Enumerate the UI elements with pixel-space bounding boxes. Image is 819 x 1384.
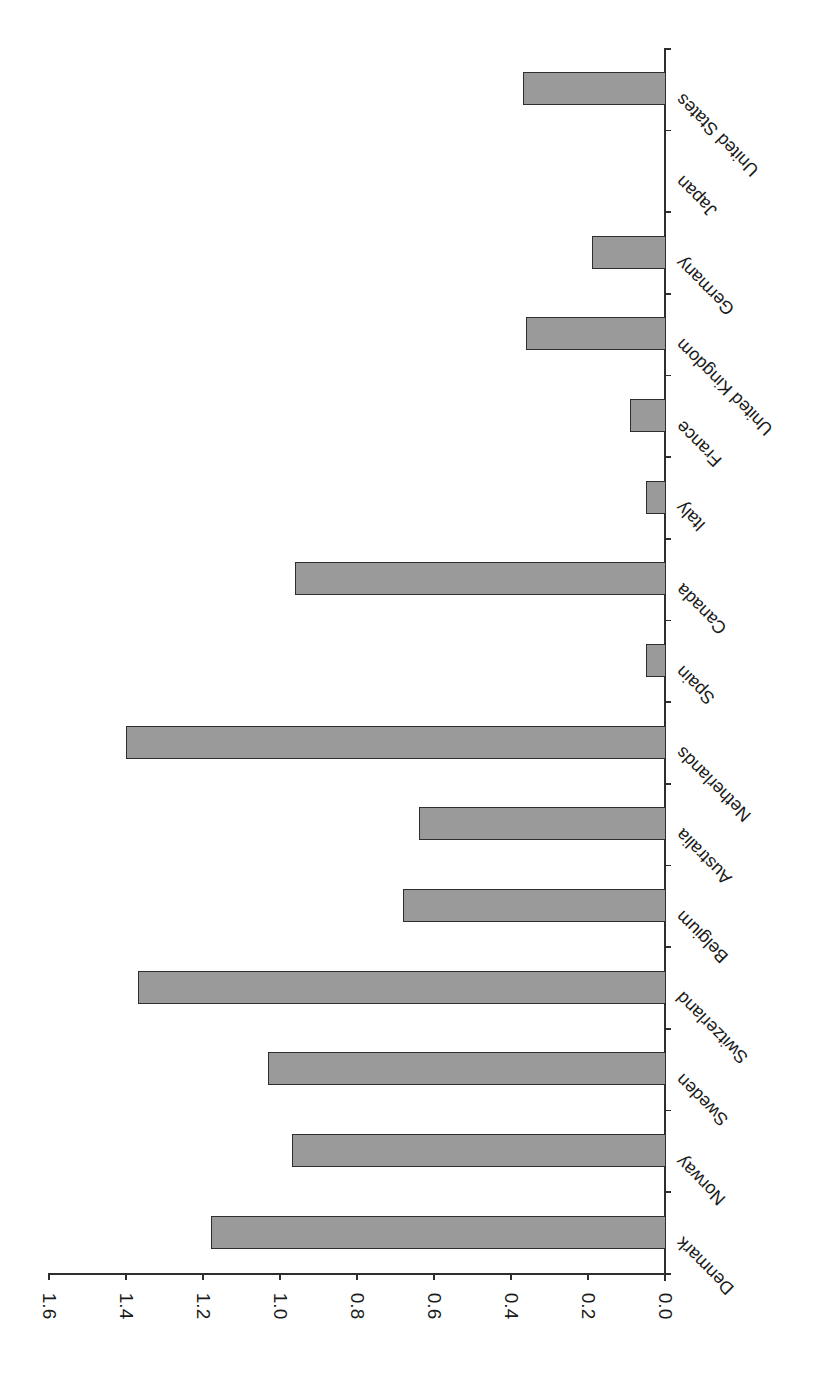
category-label: Netherlands (672, 743, 819, 899)
value-tick-label: 1.0 (269, 1286, 291, 1326)
value-tick (510, 1273, 512, 1280)
value-tick (48, 1273, 50, 1280)
category-label: Norway (672, 1151, 819, 1307)
value-tick (587, 1273, 589, 1280)
category-tick (665, 130, 671, 132)
category-label: United States (672, 90, 819, 246)
category-tick (665, 1273, 671, 1275)
category-tick (665, 48, 671, 50)
bar-germany (592, 236, 666, 269)
category-tick (665, 865, 671, 867)
value-tick-label: 1.6 (38, 1286, 60, 1326)
bar-sweden (268, 1052, 666, 1085)
category-tick (665, 375, 671, 377)
bar-norway (292, 1134, 666, 1167)
category-label: Canada (672, 580, 819, 736)
category-label: Sweden (672, 1070, 819, 1226)
bar-denmark (211, 1216, 666, 1249)
bar-switzerland (138, 971, 666, 1004)
category-tick (665, 783, 671, 785)
value-tick (125, 1273, 127, 1280)
value-tick-label: 1.2 (192, 1286, 214, 1326)
bar-spain (646, 644, 666, 677)
category-label: Switzerland (672, 988, 819, 1144)
value-tick-label: 1.4 (115, 1286, 137, 1326)
category-tick (665, 456, 671, 458)
category-label: Spain (672, 661, 819, 817)
bar-canada (295, 562, 666, 595)
category-label: Germany (672, 253, 819, 409)
category-tick (665, 293, 671, 295)
value-tick (279, 1273, 281, 1280)
bar-netherlands (126, 726, 666, 759)
value-tick (664, 1273, 666, 1280)
value-tick-label: 0.4 (500, 1286, 522, 1326)
category-label: Italy (672, 498, 819, 654)
bar-belgium (403, 889, 666, 922)
clipped-caption (815, 450, 819, 830)
category-tick (665, 211, 671, 213)
category-label: Belgium (672, 906, 819, 1062)
category-tick (665, 1028, 671, 1030)
category-tick (665, 1191, 671, 1193)
value-tick (202, 1273, 204, 1280)
value-tick-label: 0.2 (577, 1286, 599, 1326)
bar-italy (646, 481, 666, 514)
bar-united-states (523, 72, 666, 105)
category-tick (665, 701, 671, 703)
bar-australia (419, 807, 666, 840)
category-label: France (672, 416, 819, 572)
value-tick-label: 0.0 (654, 1286, 676, 1326)
value-tick-label: 0.6 (423, 1286, 445, 1326)
category-label: Australia (672, 825, 819, 981)
bar-united-kingdom (526, 317, 666, 350)
value-tick (356, 1273, 358, 1280)
category-tick (665, 1110, 671, 1112)
category-label: United Kingdom (672, 335, 819, 491)
category-label: Denmark (672, 1233, 819, 1384)
category-tick (665, 946, 671, 948)
category-label: Japan (672, 171, 819, 327)
bar-chart: 0.00.20.40.60.81.01.21.41.6United States… (0, 0, 819, 1384)
category-tick (665, 620, 671, 622)
category-tick (665, 538, 671, 540)
value-tick (433, 1273, 435, 1280)
bar-france (630, 399, 666, 432)
value-tick-label: 0.8 (346, 1286, 368, 1326)
